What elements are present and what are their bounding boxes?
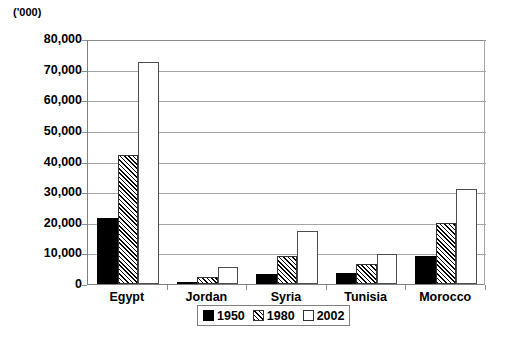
- legend-item-1980: 1980: [253, 309, 295, 323]
- legend-item-1950: 1950: [203, 309, 245, 323]
- bar-jordan-2002: [218, 267, 239, 284]
- bar-morocco-1980: [436, 223, 457, 284]
- bar-tunisia-1950: [336, 273, 357, 284]
- bar-egypt-1950: [97, 218, 118, 284]
- y-axis-tick-label: 30,000: [6, 185, 82, 199]
- x-axis-label-morocco: Morocco: [405, 290, 485, 304]
- legend-label-1950: 1950: [217, 309, 245, 323]
- y-axis-tick-label: 60,000: [6, 93, 82, 107]
- y-axis-tick-label: 10,000: [6, 246, 82, 260]
- plot-inner: [88, 40, 485, 284]
- bar-syria-2002: [297, 231, 318, 284]
- legend-item-2002: 2002: [303, 309, 345, 323]
- legend-swatch-2002: [303, 310, 314, 321]
- x-axis-label-syria: Syria: [246, 290, 326, 304]
- bar-syria-1980: [277, 256, 298, 284]
- x-axis-label-tunisia: Tunisia: [326, 290, 406, 304]
- bar-egypt-1980: [118, 155, 139, 284]
- bar-egypt-2002: [138, 62, 159, 284]
- y-axis-tick-label: 20,000: [6, 216, 82, 230]
- y-axis: 80,00070,00060,00050,00040,00030,00020,0…: [0, 40, 82, 285]
- x-axis-tick: [485, 285, 486, 290]
- plot-right-edge: [484, 40, 485, 285]
- plot-area: [87, 40, 485, 285]
- legend-swatch-1980: [253, 310, 264, 321]
- units-label: ('000): [13, 6, 41, 18]
- legend-swatch-1950: [203, 310, 214, 321]
- bar-tunisia-1980: [356, 264, 377, 284]
- bar-jordan-1980: [197, 277, 218, 284]
- y-axis-tick-label: 70,000: [6, 63, 82, 77]
- legend-label-2002: 2002: [317, 309, 345, 323]
- y-axis-tick: [82, 285, 87, 286]
- bar-chart: ('000) 80,00070,00060,00050,00040,00030,…: [0, 0, 507, 344]
- bar-jordan-1950: [177, 282, 198, 284]
- y-axis-tick-label: 0: [6, 277, 82, 291]
- legend-label-1980: 1980: [267, 309, 295, 323]
- gridline: [88, 40, 486, 41]
- y-axis-tick-label: 80,000: [6, 32, 82, 46]
- bar-morocco-2002: [456, 189, 477, 284]
- bar-tunisia-2002: [377, 254, 398, 284]
- x-axis-label-egypt: Egypt: [87, 290, 167, 304]
- x-axis-label-jordan: Jordan: [167, 290, 247, 304]
- y-axis-tick-label: 40,000: [6, 155, 82, 169]
- bar-morocco-1950: [415, 256, 436, 284]
- chart-legend: 195019802002: [197, 305, 350, 326]
- bar-syria-1950: [256, 274, 277, 284]
- y-axis-tick-label: 50,000: [6, 124, 82, 138]
